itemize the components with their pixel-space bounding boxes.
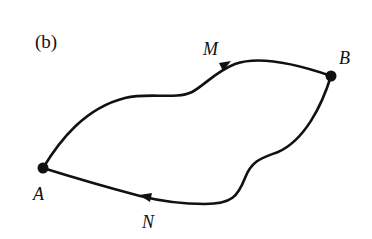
point-b-dot	[326, 71, 337, 82]
label-m: M	[203, 39, 218, 60]
path-m-curve	[43, 60, 331, 168]
label-a: A	[33, 184, 44, 205]
label-b: B	[339, 48, 350, 69]
path-diagram: (b) M B A N	[0, 0, 372, 239]
path-n-curve	[43, 76, 331, 204]
panel-label: (b)	[35, 31, 57, 53]
label-n: N	[142, 212, 154, 233]
point-a-dot	[38, 163, 49, 174]
